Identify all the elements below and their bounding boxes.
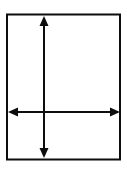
background-rect [0, 0, 127, 169]
diagram-svg [0, 0, 127, 169]
figure-canvas [0, 0, 127, 169]
